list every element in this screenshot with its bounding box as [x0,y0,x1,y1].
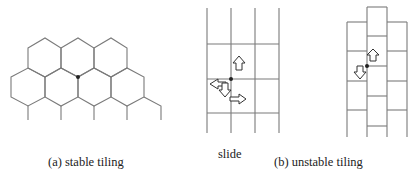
caption-b: (b) unstable tiling [274,155,363,170]
grid-vertex-dot [229,77,233,81]
marked-vertex-dot [76,75,80,79]
caption-slide: slide [218,147,242,162]
arrow-up-icon [367,49,379,61]
hexagonal-tiling [11,38,161,120]
square-grid [207,8,279,133]
arrow-down-icon [354,66,366,79]
brick-vertex-dot [365,64,369,68]
caption-a: (a) stable tiling [48,155,124,170]
slide-arrows [210,56,246,104]
arrow-right-icon [230,94,246,104]
arrow-up-icon [233,56,245,70]
